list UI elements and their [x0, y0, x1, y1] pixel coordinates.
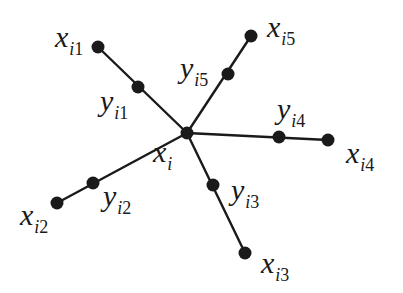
node-label-x-i5: xi5 — [267, 12, 295, 42]
node-x-i2 — [51, 197, 64, 210]
center-node-label: xi — [153, 137, 172, 167]
subscript-index: i — [167, 154, 172, 174]
subscript-number: 5 — [286, 29, 295, 49]
subscript-number: 4 — [296, 111, 305, 131]
node-y-i2 — [87, 177, 100, 190]
label-subscript: i5 — [194, 70, 208, 90]
label-subscript: i3 — [245, 192, 259, 212]
label-main: x — [55, 20, 68, 53]
node-x-i3 — [239, 247, 252, 260]
label-subscript: i1 — [114, 103, 128, 123]
node-x-i5 — [245, 30, 258, 43]
label-subscript: i4 — [291, 111, 305, 131]
label-main: x — [346, 136, 359, 169]
label-main: x — [20, 198, 33, 231]
subscript-number: 3 — [250, 192, 259, 212]
star-graph-diagram: xi yi1 xi1 yi2 xi2 yi3 xi3 yi4 xi4 yi5 x… — [0, 0, 403, 293]
label-subscript: i2 — [34, 217, 48, 237]
node-label-y-i3: yi3 — [231, 175, 259, 205]
subscript-number: 4 — [365, 155, 374, 175]
node-y-i4 — [273, 131, 286, 144]
node-label-x-i2: xi2 — [20, 200, 48, 230]
label-subscript: i5 — [281, 29, 295, 49]
node-y-i1 — [132, 81, 145, 94]
node-label-x-i1: xi1 — [55, 22, 83, 52]
label-main: y — [277, 92, 290, 125]
node-x-i1 — [92, 41, 105, 54]
node-y-i5 — [222, 68, 235, 81]
label-main: y — [180, 51, 193, 84]
node-label-y-i2: yi2 — [103, 181, 131, 211]
label-main: x — [261, 246, 274, 279]
label-subscript: i3 — [275, 265, 289, 285]
label-subscript: i1 — [69, 39, 83, 59]
label-main: y — [100, 84, 113, 117]
node-label-x-i4: xi4 — [346, 138, 374, 168]
label-main: x — [267, 10, 280, 43]
node-x-i-center — [181, 127, 194, 140]
node-label-y-i5: yi5 — [180, 53, 208, 83]
label-main: y — [103, 179, 116, 212]
label-subscript: i2 — [117, 198, 131, 218]
edge-branch-4 — [187, 133, 328, 140]
subscript-number: 2 — [39, 217, 48, 237]
subscript-number: 1 — [119, 103, 128, 123]
node-label-y-i4: yi4 — [277, 94, 305, 124]
subscript-number: 2 — [122, 198, 131, 218]
node-x-i4 — [322, 134, 335, 147]
subscript-number: 5 — [199, 70, 208, 90]
node-label-y-i1: yi1 — [100, 86, 128, 116]
label-subscript: i4 — [360, 155, 374, 175]
label-main: x — [153, 135, 166, 168]
label-main: y — [231, 173, 244, 206]
label-subscript: i — [167, 154, 172, 174]
node-y-i3 — [207, 179, 220, 192]
subscript-number: 3 — [280, 265, 289, 285]
node-label-x-i3: xi3 — [261, 248, 289, 278]
subscript-number: 1 — [74, 39, 83, 59]
